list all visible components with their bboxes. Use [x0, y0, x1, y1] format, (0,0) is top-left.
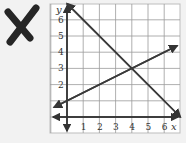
y-tick-label: 6: [58, 15, 64, 25]
y-tick-label: 4: [58, 47, 64, 57]
coordinate-graph: 12345623456 y x: [0, 0, 186, 143]
x-tick-label: 1: [81, 122, 87, 132]
x-tick-label: 3: [113, 122, 119, 132]
x-tick-label: 6: [162, 122, 168, 132]
y-axis-label: y: [55, 4, 62, 15]
y-tick-label: 5: [58, 31, 64, 41]
x-tick-label: 5: [146, 122, 152, 132]
y-tick-label: 3: [58, 63, 64, 73]
x-tick-label: 2: [97, 122, 103, 132]
x-axis-label: x: [171, 121, 177, 132]
y-tick-label: 2: [58, 80, 64, 90]
x-tick-label: 4: [129, 122, 135, 132]
